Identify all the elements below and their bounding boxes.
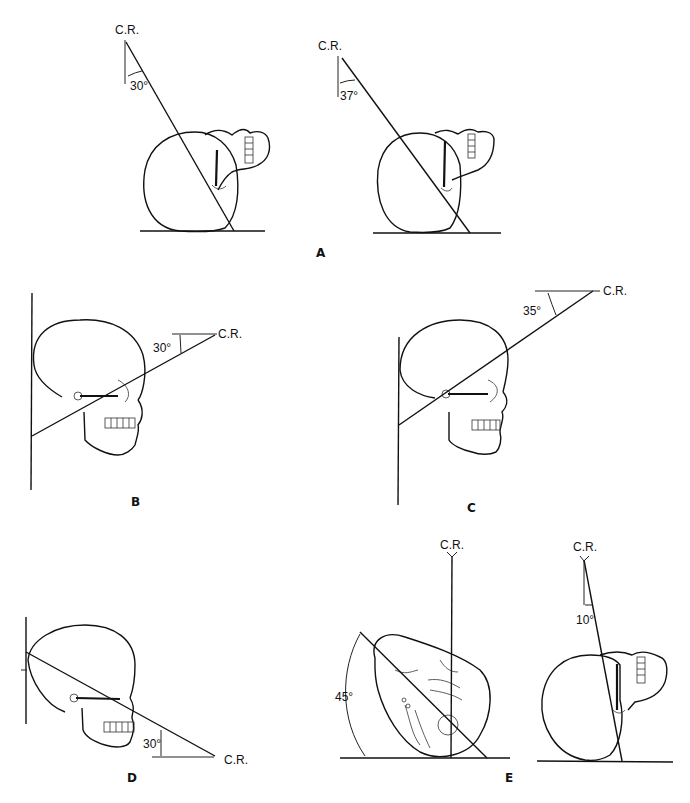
panel-label-a: A (316, 246, 326, 260)
angle-label: 30° (153, 341, 171, 355)
angle-label: 30° (143, 737, 161, 751)
angle-label: 35° (523, 304, 541, 318)
ramus-line (216, 150, 217, 186)
skull-outline (377, 133, 460, 233)
skull-outline (542, 655, 622, 760)
central-ray (126, 42, 234, 231)
face-outline (82, 698, 133, 747)
skull-outline (33, 320, 144, 400)
cr-label: C.R. (440, 538, 464, 552)
skull-outline (144, 132, 238, 232)
teeth (472, 420, 500, 430)
panel-label-c: C (467, 501, 476, 515)
occiput (28, 660, 65, 712)
panel-e-view-2: C.R. 10° (537, 540, 673, 762)
angle-arc (340, 80, 355, 83)
central-ray (32, 335, 215, 436)
teeth (245, 137, 253, 163)
panel-e-view-1: C.R. 45° (335, 538, 510, 758)
teeth (104, 722, 134, 732)
panel-a-view-2: C.R. 37° (318, 39, 501, 233)
cr-label: C.R. (224, 753, 248, 767)
angle-label: 37° (340, 89, 358, 103)
occiput (34, 365, 62, 397)
panel-d: C.R. 30° (21, 617, 248, 767)
central-ray (451, 556, 452, 758)
table-line (537, 761, 673, 762)
image-receptor (398, 337, 399, 505)
angle-arc (128, 71, 142, 76)
face-outline (84, 400, 142, 455)
teeth (637, 657, 645, 683)
panel-label-e: E (505, 771, 513, 785)
angle-label: 10° (576, 613, 594, 627)
angle-arc (548, 293, 556, 315)
skull-axial-outline (374, 635, 490, 757)
orbit (488, 380, 497, 402)
panel-label-d: D (127, 771, 137, 785)
radiographic-positioning-diagram: C.R. 30° C.R. 37° A (0, 0, 690, 803)
foramen-magnum (441, 188, 452, 191)
foramen-magnum (613, 710, 625, 713)
skull-outline (400, 320, 508, 392)
panel-b: C.R. 30° (31, 293, 242, 490)
panel-a-view-1: C.R. 30° (115, 23, 270, 232)
cr-label: C.R. (218, 327, 242, 341)
panel-label-b: B (131, 495, 140, 509)
cr-label: C.R. (603, 284, 627, 298)
teeth (468, 134, 475, 158)
cr-label: C.R. (115, 23, 139, 37)
ramus-line (444, 141, 445, 187)
panel-c: C.R. 35° (398, 284, 627, 505)
central-ray (26, 652, 215, 756)
central-ray (399, 291, 593, 425)
image-receptor (31, 293, 32, 490)
orbitomeatal-line (76, 698, 120, 699)
occiput (400, 370, 435, 398)
cr-label: C.R. (318, 39, 342, 53)
angle-label: 30° (130, 79, 148, 93)
teeth (105, 418, 135, 428)
cr-label: C.R. (573, 540, 597, 554)
angle-label: 45° (335, 690, 353, 704)
angle-arc (180, 335, 181, 353)
